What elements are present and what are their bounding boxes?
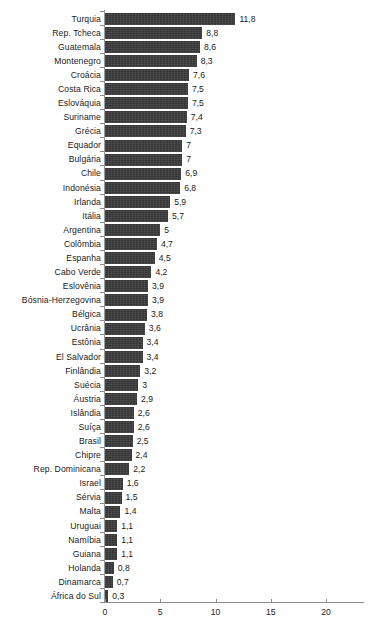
bar-row: África do Sul0,3	[0, 588, 369, 605]
y-tick-mark	[100, 405, 104, 406]
bar-value-label: 3,8	[151, 310, 163, 319]
bar-and-value: 11,8	[105, 13, 255, 25]
y-tick-mark	[100, 278, 104, 279]
bar-value-label: 3,4	[147, 353, 159, 362]
bar-value-label: 5	[164, 226, 169, 235]
y-tick-mark	[100, 67, 104, 68]
category-label: Uruguai	[0, 522, 101, 531]
category-label: Cabo Verde	[0, 268, 101, 277]
category-label: Colômbia	[0, 240, 101, 249]
bar-and-value: 3,8	[105, 309, 163, 321]
bar-value-label: 8,8	[206, 29, 218, 38]
category-label: Bélgica	[0, 310, 101, 319]
bar-and-value: 1,4	[105, 506, 136, 518]
bar-and-value: 7	[105, 140, 191, 152]
category-label: Suíça	[0, 423, 101, 432]
category-label: Irlanda	[0, 198, 101, 207]
bar-value-label: 1,6	[127, 479, 139, 488]
y-tick-mark	[100, 250, 104, 251]
x-tick-mark	[160, 599, 161, 603]
y-tick-mark	[100, 137, 104, 138]
y-tick-mark	[100, 81, 104, 82]
y-tick-mark	[100, 109, 104, 110]
bar	[105, 196, 170, 208]
y-tick-mark	[100, 306, 104, 307]
bar-value-label: 0,3	[112, 592, 124, 601]
bar	[105, 238, 157, 250]
bar-and-value: 7	[105, 154, 191, 166]
bar-and-value: 1,1	[105, 534, 133, 546]
bar	[105, 379, 138, 391]
bar-and-value: 2,9	[105, 393, 153, 405]
bar-and-value: 6,8	[105, 182, 196, 194]
bar-and-value: 8,6	[105, 41, 216, 53]
category-label: Islândia	[0, 409, 101, 418]
category-label: Sérvia	[0, 493, 101, 502]
bar-and-value: 6,9	[105, 168, 197, 180]
bar	[105, 323, 145, 335]
category-label: Chile	[0, 169, 101, 178]
category-label: Malta	[0, 507, 101, 516]
x-tick-mark	[271, 599, 272, 603]
y-tick-mark	[100, 349, 104, 350]
bar-value-label: 0,7	[117, 578, 129, 587]
category-label: Espanha	[0, 254, 101, 263]
bar-value-label: 11,8	[239, 15, 255, 24]
bar-chart: Turquia11,8Rep. Tcheca8,8Guatemala8,6Mon…	[0, 0, 369, 643]
bar	[105, 393, 137, 405]
bar	[105, 351, 143, 363]
category-label: Rep. Tcheca	[0, 29, 101, 38]
bar-value-label: 7,4	[191, 113, 203, 122]
y-tick-mark	[100, 151, 104, 152]
x-tick-label: 0	[103, 608, 108, 617]
bar	[105, 506, 120, 518]
bar	[105, 534, 117, 546]
bar	[105, 280, 148, 292]
x-tick-label: 5	[158, 608, 163, 617]
category-label: Itália	[0, 212, 101, 221]
bar-and-value: 8,8	[105, 27, 218, 39]
x-tick-mark	[216, 599, 217, 603]
category-label: Croácia	[0, 71, 101, 80]
category-label: Montenegro	[0, 57, 101, 66]
y-tick-mark	[100, 518, 104, 519]
category-label: Chipre	[0, 451, 101, 460]
bar-value-label: 1,1	[121, 536, 133, 545]
bar-and-value: 3,4	[105, 351, 159, 363]
bar-and-value: 1,6	[105, 478, 139, 490]
category-label: El Salvador	[0, 353, 101, 362]
category-label: Brasil	[0, 437, 101, 446]
category-label: Suécia	[0, 381, 101, 390]
y-tick-mark	[100, 574, 104, 575]
bar	[105, 365, 140, 377]
y-tick-mark	[100, 546, 104, 547]
bar-and-value: 4,5	[105, 252, 171, 264]
bar-and-value: 2,2	[105, 463, 145, 475]
y-tick-mark	[100, 391, 104, 392]
y-tick-mark	[100, 194, 104, 195]
bar	[105, 125, 186, 137]
category-label: Áustria	[0, 395, 101, 404]
category-label: Grécia	[0, 127, 101, 136]
y-tick-mark	[100, 222, 104, 223]
y-tick-mark	[100, 53, 104, 54]
bar	[105, 576, 113, 588]
bar-value-label: 5,7	[172, 212, 184, 221]
y-tick-mark	[100, 503, 104, 504]
bar-and-value: 5,9	[105, 196, 186, 208]
bar	[105, 266, 151, 278]
bar-and-value: 3,6	[105, 323, 161, 335]
bar-value-label: 2,9	[141, 395, 153, 404]
bar-and-value: 7,5	[105, 97, 204, 109]
bar	[105, 478, 123, 490]
bar	[105, 337, 143, 349]
bar-value-label: 7,5	[192, 99, 204, 108]
bar-and-value: 4,2	[105, 266, 167, 278]
x-tick-mark	[105, 599, 106, 603]
bar	[105, 562, 114, 574]
bar	[105, 154, 182, 166]
bar-and-value: 7,6	[105, 69, 205, 81]
bar	[105, 294, 148, 306]
bar	[105, 252, 155, 264]
x-tick-label: 15	[266, 608, 276, 617]
